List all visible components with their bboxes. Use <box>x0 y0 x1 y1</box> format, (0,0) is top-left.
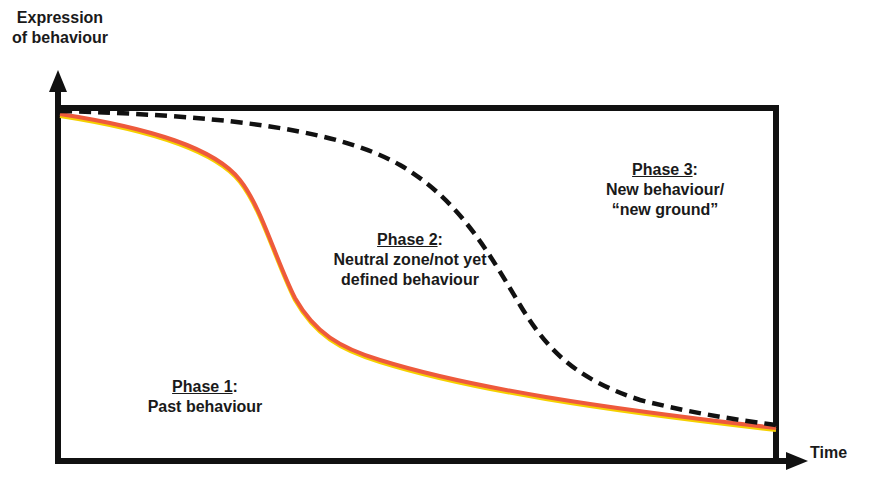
phase-3-desc-line1: New behaviour/ <box>580 180 750 200</box>
phase-3-desc-line2: “new ground” <box>580 200 750 220</box>
phase-1-desc: Past behaviour <box>100 397 310 417</box>
phase-2-desc-line1: Neutral zone/not yet <box>300 250 520 270</box>
phase-1-title: Phase 1 <box>172 378 232 395</box>
y-axis-label: Expression of behaviour <box>0 8 120 48</box>
x-axis-label: Time <box>810 443 860 463</box>
x-axis-arrow-icon <box>786 452 808 470</box>
y-axis-label-line2: of behaviour <box>0 28 120 48</box>
phase-2-desc-line2: defined behaviour <box>300 270 520 290</box>
y-axis-label-line1: Expression <box>0 8 120 28</box>
phase-3-title: Phase 3 <box>632 161 692 178</box>
y-axis-arrow-icon <box>49 70 67 92</box>
phase-2-label: Phase 2: Neutral zone/not yet defined be… <box>300 230 520 290</box>
phase-2-title: Phase 2 <box>377 231 437 248</box>
phase-3-label: Phase 3: New behaviour/ “new ground” <box>580 160 750 220</box>
phase-1-label: Phase 1: Past behaviour <box>100 377 310 417</box>
